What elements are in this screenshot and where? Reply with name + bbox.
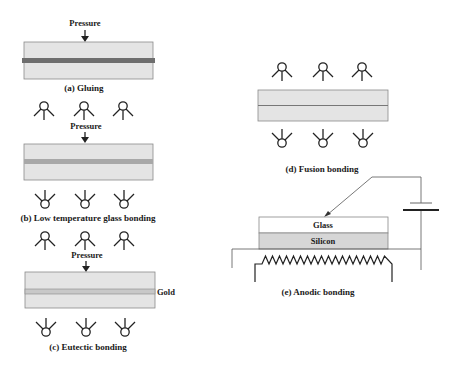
pressure-arrow-icon [81, 30, 89, 42]
pressure-arrow-icon [81, 132, 89, 143]
pressure-label: Pressure [70, 121, 102, 131]
heat-lamp-icon [76, 318, 96, 336]
caption-anodic-bonding: (e) Anodic bonding [281, 287, 355, 297]
heat-lamp-icon [114, 190, 134, 208]
panel-anodic-bonding: Glass Silicon (e) Anodic bonding [232, 177, 439, 297]
pressure-label: Pressure [69, 18, 101, 28]
heat-lamp-icon [272, 63, 292, 81]
caption-eutectic-bonding: (c) Eutectic bonding [49, 342, 127, 352]
caption-fusion-bonding: (d) Fusion bonding [285, 164, 359, 174]
heat-lamp-icon [313, 63, 333, 81]
glue-layer [22, 58, 155, 63]
heat-lamp-icon [353, 129, 373, 147]
battery-icon [403, 203, 439, 210]
heat-lamp-icon [34, 102, 54, 120]
heat-lamp-icon [352, 63, 372, 81]
heat-lamp-icon [36, 318, 56, 336]
caption-gluing: (a) Gluing [64, 83, 104, 93]
heat-lamp-icon [115, 318, 135, 336]
gold-layer [25, 289, 155, 294]
heat-lamp-icon [74, 102, 94, 120]
pressure-label: Pressure [71, 250, 103, 260]
heat-lamp-icon [75, 190, 95, 208]
panel-gluing: Pressure (a) Gluing [22, 18, 155, 93]
heat-lamp-icon [75, 232, 95, 250]
hot-plate [232, 249, 421, 268]
panel-fusion-bonding: (d) Fusion bonding [258, 63, 388, 174]
heat-lamp-icon [35, 190, 55, 208]
heat-lamp-icon [114, 232, 134, 250]
heat-lamp-icon [113, 102, 133, 120]
resistive-heater-icon [255, 256, 392, 282]
gold-label: Gold [157, 287, 175, 297]
silicon-label: Silicon [311, 236, 336, 246]
caption-glass-bonding: (b) Low temperature glass bonding [21, 213, 156, 223]
pressure-arrow-icon [82, 261, 90, 272]
panel-eutectic-bonding: Pressure Gold (c) Eutectic bonding [25, 232, 175, 352]
glass-label: Glass [313, 220, 334, 230]
panel-glass-bonding: Pressure (b) Low temperature glass bondi… [21, 102, 156, 223]
heat-lamp-icon [313, 129, 333, 147]
heat-lamp-icon [35, 232, 55, 250]
glass-layer [24, 159, 153, 164]
bonding-methods-diagram: Pressure (a) Gluing Pressure (b) Low tem… [0, 0, 458, 373]
heat-lamp-icon [272, 129, 292, 147]
